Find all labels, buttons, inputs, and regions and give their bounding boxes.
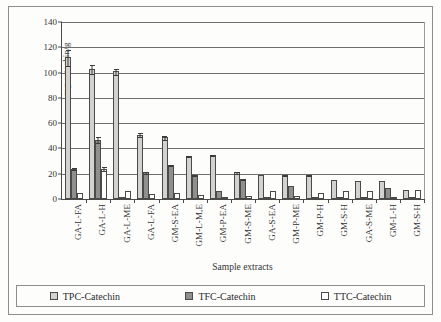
error-bar-lower (285, 176, 286, 177)
error-bar-cap (162, 140, 167, 141)
x-tick-label-cell: GA-S-ME (351, 204, 375, 260)
x-tick-label-cell: GM-S-ME (230, 204, 254, 260)
error-bar-cap (90, 74, 95, 75)
error-bar-lower (243, 180, 244, 181)
error-bar-cap (138, 137, 143, 138)
y-tick-label: 60 (48, 118, 57, 128)
legend-label: TPC-Catechin (63, 291, 120, 302)
y-tick-label: 140 (44, 17, 58, 27)
error-bar-cap (144, 174, 149, 175)
x-tick-label: GA-L-FA (73, 204, 83, 240)
x-tick-label: GM-S-H (412, 204, 422, 237)
x-tick-label: GA-L-FA (146, 204, 156, 240)
bar-ttc (198, 195, 204, 199)
bar-ttc (149, 194, 155, 199)
bar-ttc (270, 191, 276, 199)
y-tick-label: 100 (44, 68, 58, 78)
legend-item-tpc: TPC-Catechin (17, 291, 153, 302)
x-tick-label-cell: GM-P-EA (206, 204, 230, 260)
error-bar-cap (186, 157, 191, 158)
error-bar-cap (162, 136, 167, 137)
error-bar-lower (116, 72, 117, 76)
legend-swatch-icon (321, 292, 329, 300)
x-axis-tick-labels: GA-L-FAGA-L-HGA-L-MEGA-L-FAGM-S-EAGM-L-M… (61, 204, 424, 260)
x-tick-mark (400, 199, 401, 203)
bar-group (134, 22, 158, 199)
x-tick-mark (424, 199, 425, 203)
x-tick-label-cell: GM-S-H (327, 204, 351, 260)
error-bar-upper (68, 50, 69, 59)
legend-swatch-icon (50, 292, 58, 300)
x-tick-mark (207, 199, 208, 203)
bar-group (328, 22, 352, 199)
error-bar-lower (170, 166, 171, 167)
bar-group (279, 22, 303, 199)
error-bar-cap (102, 167, 107, 168)
x-tick-label: GM-S-H (339, 204, 349, 237)
x-tick-mark (86, 199, 87, 203)
error-bar-cap (66, 66, 71, 67)
legend-item-tfc: TFC-Catechin (153, 291, 289, 302)
x-tick-label: GA-L-ME (122, 204, 132, 243)
chart-legend: TPC-Catechin TFC-Catechin TTC-Catechin (16, 285, 425, 307)
error-bar-cap (114, 69, 119, 70)
x-tick-label: GA-S-ME (364, 204, 374, 242)
error-bar-cap (192, 176, 197, 177)
error-bar-cap (96, 143, 101, 144)
error-bar-lower (188, 157, 189, 158)
x-tick-mark (110, 199, 111, 203)
bar-group (62, 22, 86, 199)
y-tick-label: 0 (53, 194, 58, 204)
x-tick-label: GM-P-EA (218, 204, 228, 242)
x-tick-label: GM-L-M,E (194, 204, 204, 247)
plot-canvas: 020406080100120140 (61, 22, 424, 200)
x-tick-mark (376, 199, 377, 203)
error-bar-lower (194, 176, 195, 177)
bar-group (376, 22, 400, 199)
x-tick-label-cell: GA-L-FA (134, 204, 158, 260)
error-bar-cap (210, 156, 215, 157)
y-tick-label: 20 (48, 169, 57, 179)
bar-group (231, 22, 255, 199)
error-bar-lower (146, 173, 147, 174)
error-bar-cap (114, 75, 119, 76)
x-tick-mark (134, 199, 135, 203)
bar-tpc (258, 175, 264, 199)
x-tick-label-cell: GA-L-FA (61, 204, 85, 260)
bar-ttc (343, 191, 349, 199)
bar-ttc (294, 196, 300, 199)
bar-ttc (246, 196, 252, 199)
bar-group (303, 22, 327, 199)
error-bar-cap (90, 65, 95, 66)
error-bar-cap (307, 176, 312, 177)
x-tick-label: GM-L-H (388, 204, 398, 237)
x-tick-mark (328, 199, 329, 203)
x-tick-label: GM-S-EA (170, 204, 180, 242)
chart-area: mg catechin/g 020406080100120140 GA-L-FA… (14, 10, 429, 278)
error-bar-lower (309, 176, 310, 177)
bar-group (159, 22, 183, 199)
bar-ttc (101, 169, 107, 199)
legend-label: TTC-Catechin (334, 291, 392, 302)
legend-item-ttc: TTC-Catechin (288, 291, 424, 302)
error-bar-cap (66, 50, 71, 51)
bar-group (352, 22, 376, 199)
x-tick-label-cell: GA-L-H (85, 204, 109, 260)
bar-group (183, 22, 207, 199)
bar-group (400, 22, 424, 199)
bar-group (86, 22, 110, 199)
x-tick-label-cell: GA-S-EA (255, 204, 279, 260)
error-bar-cap (168, 166, 173, 167)
figure-root: mg catechin/g 020406080100120140 GA-L-FA… (0, 0, 441, 322)
x-tick-mark (231, 199, 232, 203)
x-tick-mark (183, 199, 184, 203)
error-bar-lower (212, 156, 213, 157)
bar-group (110, 22, 134, 199)
error-bar-lower (140, 136, 141, 139)
x-tick-mark (279, 199, 280, 203)
x-axis-title: Sample extracts (61, 262, 424, 272)
error-bar-lower (98, 141, 99, 145)
error-bar-cap (235, 174, 240, 175)
bar-ttc (222, 197, 228, 199)
x-tick-mark (255, 199, 256, 203)
